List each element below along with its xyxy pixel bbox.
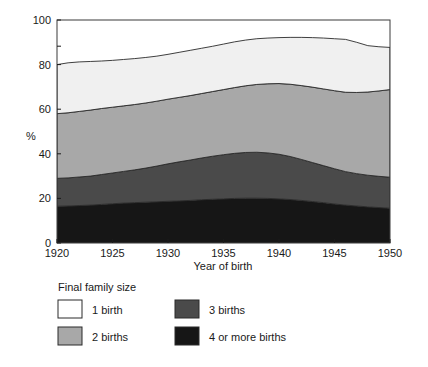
legend-swatch-2-births <box>58 327 82 345</box>
area-bands <box>57 37 390 243</box>
y-tick-label-80: 80 <box>39 59 51 71</box>
legend-swatch-1-birth <box>58 300 82 318</box>
y-tick-label-100: 100 <box>33 14 51 26</box>
x-tick-label-1930: 1930 <box>156 247 180 259</box>
legend-label-2-births: 2 births <box>92 331 129 343</box>
x-tick-label-1945: 1945 <box>322 247 346 259</box>
legend-title: Final family size <box>58 281 136 293</box>
x-tick-label-1925: 1925 <box>100 247 124 259</box>
y-tick-label-60: 60 <box>39 103 51 115</box>
stacked-area-chart: 020406080100 192019251930193519401945195… <box>0 0 428 367</box>
chart-figure: 020406080100 192019251930193519401945195… <box>0 0 428 367</box>
legend-swatch-4-or-more-births <box>175 327 199 345</box>
y-tick-label-20: 20 <box>39 192 51 204</box>
x-tick-label-1920: 1920 <box>45 247 69 259</box>
y-axis-label: % <box>26 130 36 142</box>
legend-label-1-birth: 1 birth <box>92 304 123 316</box>
x-tick-label-1950: 1950 <box>378 247 402 259</box>
legend-label-4-or-more-births: 4 or more births <box>209 331 287 343</box>
y-tick-label-40: 40 <box>39 148 51 160</box>
legend: Final family size 1 birth 2 births 3 bir… <box>58 281 287 345</box>
legend-label-3-births: 3 births <box>209 304 246 316</box>
x-tick-label-1935: 1935 <box>211 247 235 259</box>
legend-swatch-3-births <box>175 300 199 318</box>
x-axis-label: Year of birth <box>194 260 253 272</box>
x-tick-label-1940: 1940 <box>267 247 291 259</box>
